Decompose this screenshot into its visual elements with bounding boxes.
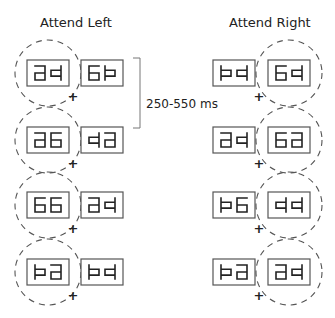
stimulus-box-left <box>213 192 255 218</box>
trial-row: + <box>213 239 322 305</box>
trial-row: + <box>15 107 123 173</box>
trial-row: + <box>213 172 322 238</box>
stimulus-box-right <box>81 192 123 218</box>
trial-row: + <box>15 172 123 238</box>
stimulus-box-right <box>81 127 123 153</box>
fixation-cross: + <box>254 156 265 171</box>
fixation-cross: + <box>254 221 265 236</box>
fixation-cross: + <box>254 89 265 104</box>
stimulus-box-left <box>27 60 69 86</box>
fixation-cross: + <box>68 89 79 104</box>
trial-row: + <box>15 40 123 106</box>
stimulus-box-left <box>213 60 255 86</box>
stimulus-box-right <box>268 60 310 86</box>
panel-attend-left: ++++ <box>15 40 123 305</box>
stimulus-box-right <box>81 60 123 86</box>
fixation-cross: + <box>68 288 79 303</box>
trial-row: + <box>15 239 123 305</box>
stimulus-diagram: ++++++++ <box>0 0 335 318</box>
stimulus-box-right <box>268 127 310 153</box>
timing-bracket <box>133 58 140 128</box>
stimulus-box-left <box>213 127 255 153</box>
trial-row: + <box>213 107 322 173</box>
stimulus-box-left <box>213 259 255 285</box>
trial-row: + <box>213 40 322 106</box>
stimulus-box-right <box>268 192 310 218</box>
stimulus-box-left <box>27 259 69 285</box>
fixation-cross: + <box>254 288 265 303</box>
stimulus-box-right <box>81 259 123 285</box>
panel-attend-right: ++++ <box>213 40 322 305</box>
fixation-cross: + <box>68 156 79 171</box>
stimulus-box-right <box>268 259 310 285</box>
stimulus-box-left <box>27 192 69 218</box>
fixation-cross: + <box>68 221 79 236</box>
stimulus-box-left <box>27 127 69 153</box>
